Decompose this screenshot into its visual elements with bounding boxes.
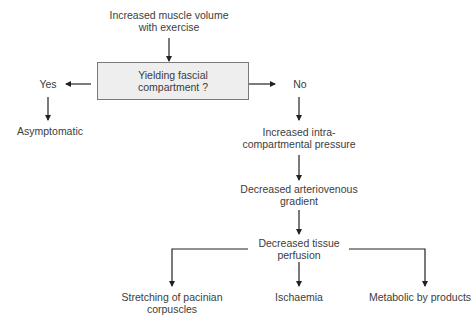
chain-node-pressure: Increased intra- compartmental pressure [229, 126, 369, 150]
start-node: Increased muscle volume with exercise [109, 9, 229, 33]
chain-1-line2: gradient [229, 195, 369, 207]
decision-box: Yielding fascial compartment ? [97, 62, 249, 100]
chain-0-line1: Increased intra- [229, 126, 369, 138]
connector-lines [0, 0, 475, 323]
chain-node-gradient: Decreased arteriovenous gradient [229, 183, 369, 207]
start-line2: with exercise [109, 21, 229, 33]
no-label: No [284, 78, 316, 90]
outcome-0-line2: corpuscles [112, 303, 232, 315]
outcome-stretching: Stretching of pacinian corpuscles [112, 291, 232, 315]
decision-line1: Yielding fascial [138, 69, 208, 81]
chain-1-line1: Decreased arteriovenous [229, 183, 369, 195]
chain-2-line2: perfusion [244, 249, 354, 261]
yes-label: Yes [32, 78, 64, 90]
chain-node-perfusion: Decreased tissue perfusion [244, 237, 354, 261]
asymptomatic-node: Asymptomatic [10, 125, 90, 137]
outcome-metabolic: Metabolic by products [360, 291, 475, 303]
decision-line2: compartment ? [138, 81, 208, 93]
start-line1: Increased muscle volume [109, 9, 229, 21]
chain-2-line1: Decreased tissue [244, 237, 354, 249]
chain-0-line2: compartmental pressure [229, 138, 369, 150]
outcome-0-line1: Stretching of pacinian [112, 291, 232, 303]
outcome-ischaemia: Ischaemia [259, 291, 339, 303]
